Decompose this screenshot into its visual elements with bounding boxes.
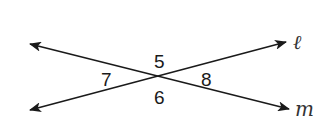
angle-label-5: 5 (154, 51, 165, 72)
intersecting-lines-diagram: 5 6 7 8 ℓ m (0, 0, 327, 125)
line-label-l: ℓ (293, 30, 302, 54)
angle-label-6: 6 (154, 87, 165, 108)
angle-label-7: 7 (101, 69, 112, 90)
line-label-m: m (295, 97, 314, 121)
angle-label-8: 8 (201, 69, 212, 90)
